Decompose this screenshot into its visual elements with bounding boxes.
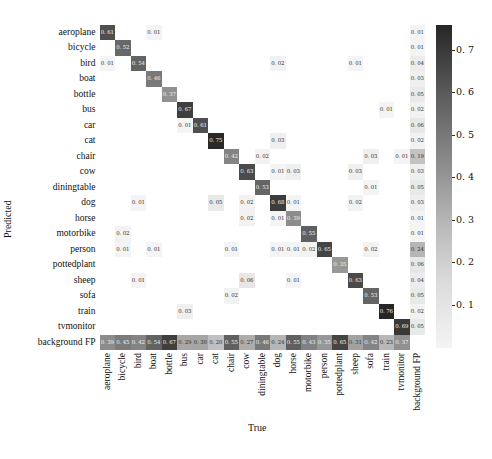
heatmap-cell: 0. 01	[410, 40, 426, 56]
x-tick-label: train	[381, 353, 391, 433]
heatmap-cell: 0. 35	[317, 335, 333, 351]
heatmap-cell: 0. 01	[115, 242, 131, 258]
heatmap-cell: 0. 02	[224, 288, 240, 304]
heatmap-cell: 0. 01	[363, 180, 379, 196]
heatmap-cell: 0. 53	[255, 180, 271, 196]
x-tick-label: boat	[148, 353, 158, 433]
x-tick-label: aeroplane	[102, 353, 112, 433]
y-tick-label: tvmonitor	[0, 319, 96, 335]
heatmap-cell: 0. 46	[146, 71, 162, 87]
heatmap-cell: 0. 06	[410, 257, 426, 273]
heatmap-cell: 0. 01	[131, 195, 147, 211]
colorbar-tick-label: 0. 4	[452, 171, 474, 182]
heatmap-cell: 0. 19	[410, 149, 426, 165]
x-tick-label: chair	[226, 353, 236, 433]
heatmap-cell: 0. 02	[239, 195, 255, 211]
heatmap-cell: 0. 43	[301, 335, 317, 351]
heatmap-cell: 0. 52	[115, 40, 131, 56]
x-tick-label: sofa	[365, 353, 375, 433]
y-tick-label: pottedplant	[0, 257, 96, 273]
heatmap-cell: 0. 01	[286, 242, 302, 258]
x-tick-label: cow	[241, 353, 251, 433]
y-tick-label: sofa	[0, 288, 96, 304]
heatmap-cell: 0. 02	[363, 242, 379, 258]
heatmap-cell: 0. 03	[286, 164, 302, 180]
y-tick-label: diningtable	[0, 180, 96, 196]
heatmap-cell: 0. 03	[363, 149, 379, 165]
x-tick-label: dog	[272, 353, 282, 433]
y-tick-label: background FP	[0, 335, 96, 351]
heatmap-cell: 0. 01	[270, 211, 286, 227]
colorbar-tick-label: 0. 6	[452, 86, 474, 97]
heatmap-cell: 0. 20	[208, 335, 224, 351]
y-tick-label: boat	[0, 71, 96, 87]
colorbar	[436, 25, 452, 348]
heatmap-cell: 0. 61	[193, 118, 209, 134]
heatmap-cell: 0. 03	[410, 164, 426, 180]
y-tick-label: aeroplane	[0, 25, 96, 41]
heatmap-cell: 0. 68	[270, 195, 286, 211]
heatmap-cell: 0. 05	[410, 288, 426, 304]
heatmap-cell: 0. 06	[410, 118, 426, 134]
colorbar-tick-label: 0. 7	[452, 44, 474, 55]
heatmap-cell: 0. 01	[286, 273, 302, 289]
colorbar-tick-label: 0. 1	[452, 299, 474, 310]
heatmap-cell: 0. 29	[177, 335, 193, 351]
heatmap-cell: 0. 37	[162, 87, 178, 103]
heatmap-cell: 0. 03	[348, 164, 364, 180]
x-tick-label: bird	[133, 353, 143, 433]
x-tick-label: background FP	[412, 353, 422, 433]
heatmap-cell: 0. 02	[410, 102, 426, 118]
heatmap-cell: 0. 63	[239, 164, 255, 180]
x-tick-label: bottle	[164, 353, 174, 433]
x-tick-label: pottedplant	[334, 353, 344, 433]
y-tick-label: dog	[0, 195, 96, 211]
heatmap-cell: 0. 42	[131, 335, 147, 351]
heatmap-cell: 0. 02	[115, 226, 131, 242]
heatmap-cell: 0. 37	[394, 335, 410, 351]
heatmap-cell: 0. 01	[146, 25, 162, 41]
x-tick-label: tvmonitor	[396, 353, 406, 433]
heatmap-cell: 0. 30	[193, 335, 209, 351]
heatmap-cell: 0. 35	[332, 257, 348, 273]
x-tick-label: car	[195, 353, 205, 433]
heatmap-cell: 0. 01	[100, 56, 116, 72]
colorbar-tick-label: 0. 5	[452, 129, 474, 140]
heatmap-cell: 0. 27	[239, 335, 255, 351]
x-tick-label: cat	[210, 353, 220, 433]
colorbar-tick-label: 0. 3	[452, 214, 474, 225]
y-tick-label: chair	[0, 149, 96, 165]
heatmap-cell: 0. 01	[286, 195, 302, 211]
heatmap-cell: 0. 05	[410, 319, 426, 335]
heatmap-cell: 0. 03	[270, 133, 286, 149]
heatmap-cell: 0. 53	[363, 288, 379, 304]
heatmap-cell: 0. 65	[317, 242, 333, 258]
heatmap-cell: 0. 55	[286, 335, 302, 351]
heatmap-cell: 0. 02	[239, 211, 255, 227]
heatmap-cell: 0. 01	[177, 118, 193, 134]
heatmap-cell: 0. 01	[348, 56, 364, 72]
x-tick-label: bicycle	[117, 353, 127, 433]
x-tick-label: motorbike	[303, 353, 313, 433]
x-tick-label: horse	[288, 353, 298, 433]
heatmap-cell: 0. 54	[146, 335, 162, 351]
heatmap-cell: 0. 04	[410, 273, 426, 289]
heatmap-cell: 0. 23	[379, 335, 395, 351]
heatmap-cell: 0. 39	[100, 335, 116, 351]
y-tick-label: bird	[0, 56, 96, 72]
heatmap-cell: 0. 69	[394, 319, 410, 335]
heatmap-cell: 0. 05	[208, 195, 224, 211]
heatmap-cell: 0. 55	[301, 226, 317, 242]
y-tick-label: horse	[0, 211, 96, 227]
heatmap-cell: 0. 67	[177, 102, 193, 118]
heatmap-cell: 0. 01	[131, 273, 147, 289]
y-tick-label: sheep	[0, 273, 96, 289]
heatmap-cell: 0. 45	[115, 335, 131, 351]
heatmap-cell: 0. 55	[224, 335, 240, 351]
heatmap-cell: 0. 63	[348, 273, 364, 289]
confusion-matrix-chart: 0. 610. 010. 010. 520. 010. 010. 540. 02…	[0, 0, 492, 459]
heatmap-cell: 0. 01	[146, 242, 162, 258]
y-tick-label: cat	[0, 133, 96, 149]
heatmap-cell: 0. 01	[410, 25, 426, 41]
heatmap-cell: 0. 03	[410, 71, 426, 87]
